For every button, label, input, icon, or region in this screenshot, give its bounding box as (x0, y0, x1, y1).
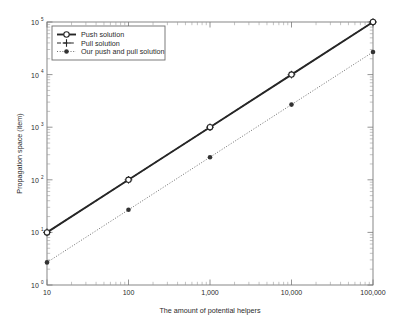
chart-canvas[interactable]: 10 0 10 1 10 2 10 3 10 4 10 5 10 100 1,0… (0, 0, 399, 325)
x-tick-label-0: 10 (43, 289, 51, 296)
figure-container: 10 0 10 1 10 2 10 3 10 4 10 5 10 100 1,0… (0, 0, 399, 325)
circle-open-marker-icon (64, 32, 69, 37)
x-axis-tick-labels: 10 100 1,000 10,000 100,000 (43, 289, 386, 296)
y-tick-label-exp-1: 1 (41, 227, 44, 232)
y-tick-label-base-2: 10 (31, 177, 39, 184)
y-tick-label-exp-5: 5 (41, 17, 44, 22)
y-axis-major-ticks (47, 22, 373, 285)
x-axis-minor-ticks (72, 22, 370, 285)
circle-filled-marker-icon (64, 49, 69, 54)
x-tick-label-3: 10,000 (281, 289, 303, 296)
x-axis-title: The amount of potential helpers (159, 306, 260, 315)
x-tick-label-4: 100,000 (360, 289, 385, 296)
legend-item-label-our-push-and-pull-solution: Our push and pull solution (81, 47, 165, 56)
x-tick-label-1: 100 (123, 289, 135, 296)
y-tick-label-exp-0: 0 (41, 280, 44, 285)
series-markers-our-push-and-pull-solution (45, 50, 376, 265)
x-axis-major-ticks (47, 22, 373, 285)
legend[interactable]: Push solution Pull solution Our push and… (52, 26, 165, 60)
y-axis-tick-labels: 10 0 10 1 10 2 10 3 10 4 10 5 (31, 17, 44, 289)
y-tick-label-exp-3: 3 (41, 122, 44, 127)
y-tick-label-exp-4: 4 (41, 69, 44, 74)
y-axis-minor-ticks (47, 24, 373, 269)
y-tick-label-base-0: 10 (31, 282, 39, 289)
y-tick-label-base-3: 10 (31, 124, 39, 131)
y-tick-label-base-4: 10 (31, 72, 39, 79)
y-tick-label-base-5: 10 (31, 19, 39, 26)
plot-frame (47, 22, 373, 285)
y-axis-title: Propagation space (item) (15, 113, 24, 193)
y-tick-label-exp-2: 2 (41, 175, 44, 180)
x-tick-label-2: 1,000 (201, 289, 219, 296)
y-tick-label-base-1: 10 (31, 229, 39, 236)
